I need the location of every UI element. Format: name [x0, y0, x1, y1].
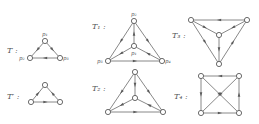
arrowhead-icon — [217, 19, 221, 22]
vertex — [160, 109, 165, 114]
graph-t2: T₂ : — [92, 69, 166, 114]
vertex-label: p₂ — [19, 55, 25, 62]
arrowhead-icon — [119, 51, 123, 54]
vertex — [57, 55, 62, 60]
arrowhead-icon — [203, 39, 206, 43]
arrowhead-icon — [202, 25, 206, 28]
vertex — [131, 43, 136, 48]
vertex — [132, 69, 137, 74]
graph-t4: T₄ : — [174, 73, 242, 115]
diagram-canvas: T :p₁p₂p₃T′ :T₁ :p₂p₁p₃p₄T₂ :T₃ :T₄ : — [0, 0, 259, 124]
vertex-label: p₁ — [42, 31, 48, 38]
graph-t-prime: T′ : — [7, 82, 63, 104]
graph-label: T₄ : — [174, 92, 188, 101]
vertex — [27, 55, 32, 60]
vertex — [42, 82, 47, 87]
vertex — [198, 73, 203, 78]
arrowhead-icon — [231, 40, 234, 44]
vertex — [28, 99, 33, 104]
vertex — [105, 58, 110, 63]
vertex — [159, 58, 164, 63]
arrowhead-icon — [133, 111, 137, 114]
vertex-label: p₁ — [131, 50, 137, 57]
arrowhead-icon — [200, 92, 203, 96]
vertex — [198, 110, 203, 115]
arrowhead-icon — [147, 104, 152, 107]
arrowhead-icon — [146, 52, 150, 55]
graph-label: T₂ : — [92, 84, 106, 93]
arrowhead-icon — [133, 31, 136, 35]
arrowhead-icon — [218, 112, 222, 115]
vertex-label: p₂ — [131, 11, 137, 18]
arrowhead-icon — [218, 75, 222, 78]
vertex-label: p₃ — [97, 58, 103, 65]
graph-label: T′ : — [7, 92, 20, 101]
vertex — [57, 99, 62, 104]
arrowhead-icon — [43, 57, 47, 60]
vertex — [188, 17, 193, 22]
graph-label: T₃ : — [172, 31, 186, 40]
vertex-label: p₄ — [165, 58, 171, 65]
vertex — [236, 73, 241, 78]
arrowhead-icon — [120, 89, 124, 93]
arrowhead-icon — [120, 103, 125, 106]
arrowhead-icon — [218, 47, 221, 51]
vertex — [132, 95, 137, 100]
vertex — [216, 61, 221, 66]
graph-t: T :p₁p₂p₃ — [7, 31, 69, 62]
graph-label: T₁ : — [92, 22, 106, 31]
graph-label: T : — [7, 46, 18, 55]
vertex-label: p₃ — [63, 55, 69, 62]
arrowhead-icon — [134, 83, 137, 87]
arrowhead-icon — [231, 25, 235, 28]
vertex — [236, 110, 241, 115]
vertex — [105, 109, 110, 114]
graph-t1: T₁ :p₂p₁p₃p₄ — [92, 11, 171, 65]
vertex — [244, 17, 249, 22]
arrowhead-icon — [133, 60, 137, 63]
vertex — [42, 38, 47, 43]
graph-t3: T₃ : — [172, 17, 250, 66]
arrowhead-icon — [238, 92, 241, 96]
arrowhead-icon — [120, 38, 123, 42]
vertex — [131, 18, 136, 23]
vertex — [216, 32, 221, 37]
arrowhead-icon — [43, 101, 47, 104]
